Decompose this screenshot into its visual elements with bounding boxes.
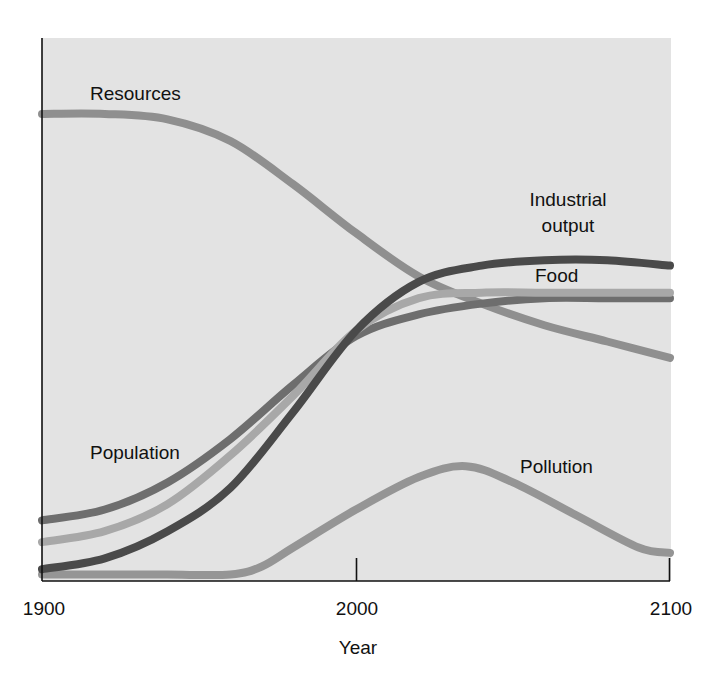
- label-food: Food: [535, 265, 578, 287]
- x-axis-title: Year: [339, 637, 377, 659]
- label-industrial-line2: output: [518, 215, 618, 237]
- x-tick-label-2000: 2000: [336, 598, 378, 620]
- label-industrial-output: Industrial output: [518, 189, 618, 237]
- x-tick-label-1900: 1900: [23, 598, 65, 620]
- label-pollution: Pollution: [520, 456, 593, 478]
- label-population: Population: [90, 442, 180, 464]
- x-tick-label-2100: 2100: [650, 598, 692, 620]
- label-resources: Resources: [90, 83, 181, 105]
- label-industrial-line1: Industrial: [518, 189, 618, 211]
